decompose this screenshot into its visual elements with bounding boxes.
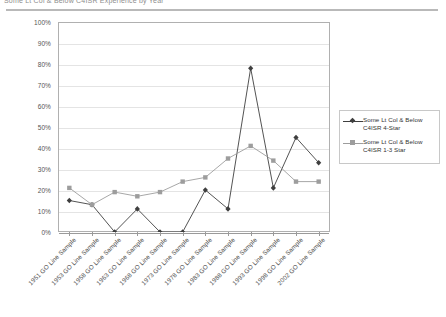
x-axis-tick	[296, 232, 297, 236]
data-point-square	[271, 158, 275, 162]
gridline	[59, 233, 329, 234]
y-axis-tick-label: 100%	[3, 19, 51, 26]
data-point-square	[180, 179, 184, 183]
data-point-diamond	[271, 185, 276, 191]
data-point-square	[67, 186, 71, 190]
y-axis-tick-label: 20%	[3, 187, 51, 194]
x-axis-tick	[273, 232, 274, 236]
data-point-square	[203, 175, 207, 179]
x-axis-tick	[115, 232, 116, 236]
data-point-square	[112, 190, 116, 194]
y-axis-tick-label: 70%	[3, 82, 51, 89]
x-axis-tick	[319, 232, 320, 236]
data-point-square	[248, 144, 252, 148]
y-axis-tick-label: 50%	[3, 124, 51, 131]
data-point-square	[226, 156, 230, 160]
data-point-square	[294, 179, 298, 183]
series-layer	[58, 22, 330, 232]
data-point-square	[135, 194, 139, 198]
y-axis-tick-label: 80%	[3, 61, 51, 68]
data-point-diamond	[67, 198, 72, 204]
chart-legend: Some Lt Col & BelowC4ISR 4-StarSome Lt C…	[339, 110, 440, 164]
legend-item[interactable]: Some Lt Col & BelowC4ISR 4-Star	[343, 116, 435, 131]
data-point-square	[316, 179, 320, 183]
x-axis-tick	[183, 232, 184, 236]
y-axis-tick-label: 0%	[3, 229, 51, 236]
data-point-diamond	[248, 65, 253, 71]
y-axis-tick-label: 60%	[3, 103, 51, 110]
y-axis-tick-label: 90%	[3, 40, 51, 47]
data-point-square	[158, 190, 162, 194]
y-axis-tick-label: 30%	[3, 166, 51, 173]
series-line	[69, 146, 318, 205]
x-axis-tick	[205, 232, 206, 236]
y-axis-tick-label: 10%	[3, 208, 51, 215]
legend-square-icon	[343, 139, 363, 147]
chart-container: Some Lt Col & BelowC4ISR 4-StarSome Lt C…	[0, 0, 446, 317]
x-axis-tick	[251, 232, 252, 236]
x-axis-tick	[160, 232, 161, 236]
legend-item[interactable]: Some Lt Col & BelowC4ISR 1-3 Star	[343, 138, 435, 153]
y-axis-tick-label: 40%	[3, 145, 51, 152]
legend-diamond-icon	[343, 117, 363, 125]
series-line	[69, 68, 318, 232]
x-axis-tick	[69, 232, 70, 236]
legend-label: Some Lt Col & BelowC4ISR 4-Star	[363, 116, 422, 131]
data-point-square	[90, 203, 94, 207]
x-axis-tick	[92, 232, 93, 236]
x-axis-tick	[137, 232, 138, 236]
legend-label: Some Lt Col & BelowC4ISR 1-3 Star	[363, 138, 422, 153]
x-axis-tick	[228, 232, 229, 236]
